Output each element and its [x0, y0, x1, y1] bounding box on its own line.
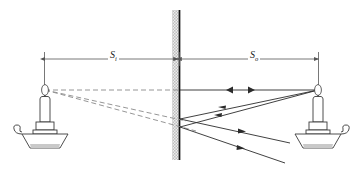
candle-collar-rim-right — [306, 130, 330, 134]
candle-collar-left — [36, 122, 54, 130]
candle-body-left — [40, 97, 50, 123]
axis-ray-arrow-left — [226, 87, 233, 94]
incident-ray-2 — [180, 90, 318, 127]
candle-dish-shadow-right — [303, 144, 333, 148]
vertical-mirror — [172, 10, 180, 160]
incident-ray-1-arrow — [218, 106, 226, 110]
incident-ray-1 — [180, 90, 318, 119]
axis-ray-arrow-right — [248, 87, 255, 94]
image-distance-label: Si — [108, 50, 119, 63]
reflected-ray-2 — [180, 127, 285, 163]
candle-collar-right — [309, 122, 327, 130]
candle-body-right — [313, 97, 323, 123]
reflected-ray-1 — [180, 119, 290, 143]
candle-flame-left — [42, 85, 49, 96]
image-distance-subscript: i — [115, 55, 117, 62]
dimension-group — [45, 52, 319, 96]
candle-dish-shadow-left — [30, 144, 60, 148]
axis-ray-group — [180, 87, 318, 94]
candle-handle-right — [341, 125, 349, 134]
mirror-hatch-band — [172, 10, 179, 160]
virtual-ray-upper — [45, 90, 186, 121]
candle-collar-rim-left — [33, 130, 57, 134]
diagram-canvas — [0, 0, 360, 171]
optics-diagram-figure: Si So — [0, 0, 360, 171]
object-distance-subscript: o — [255, 55, 258, 62]
candle-flame-right — [315, 85, 322, 96]
object-distance-label: So — [248, 50, 260, 63]
image-candle-left — [14, 85, 68, 148]
incident-ray-group — [180, 90, 318, 127]
reflected-ray-group — [180, 119, 290, 163]
candle-handle-left — [14, 125, 22, 134]
